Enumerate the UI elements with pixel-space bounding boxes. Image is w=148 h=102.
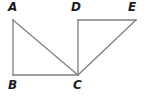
segment-ac xyxy=(13,20,78,75)
segment-ce xyxy=(78,20,136,75)
vertex-label-e: E xyxy=(128,1,136,13)
geometry-figure: A B C D E xyxy=(0,0,148,102)
vertex-label-b: B xyxy=(8,79,17,91)
vertex-label-d: D xyxy=(71,1,81,13)
vertex-label-a: A xyxy=(8,1,17,13)
vertex-label-c: C xyxy=(73,79,82,91)
